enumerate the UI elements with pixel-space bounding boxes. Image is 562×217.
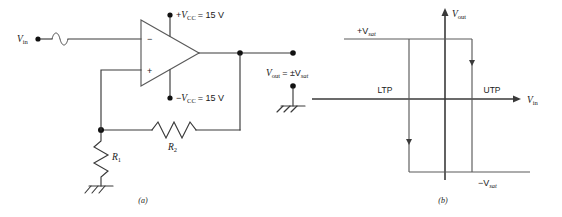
negative-supply-label: −VCC= 15 V xyxy=(176,93,224,104)
utp-label: UTP xyxy=(484,85,501,95)
negative-supply-value: = 15 V xyxy=(198,93,224,103)
figure-schmitt-trigger: − + +VCC= 15 V −VCC= 15 V Vout= ±Vsat xyxy=(0,0,562,217)
y-axis-label: Vout xyxy=(452,9,466,20)
positive-saturation-sub: sat xyxy=(368,30,376,37)
negative-supply-sub: CC xyxy=(187,97,196,104)
ltp-label: LTP xyxy=(378,85,393,95)
resistor-2-symbol xyxy=(152,122,196,138)
sine-source-icon xyxy=(52,33,68,45)
caption-b: (b) xyxy=(438,196,448,205)
resistor-2-sub: 2 xyxy=(174,146,177,153)
transfer-characteristic-chart: Vout Vin +Vsat −Vsat LTP UTP (b) xyxy=(312,8,539,205)
output-ground-symbol xyxy=(277,106,305,112)
feedback-wire-to-noninverting xyxy=(101,70,141,130)
negative-saturation-label: −Vsat xyxy=(478,178,497,189)
positive-supply-value: = 15 V xyxy=(198,10,224,20)
figure-canvas: − + +VCC= 15 V −VCC= 15 V Vout= ±Vsat xyxy=(0,0,562,217)
input-label: Vin xyxy=(17,34,29,45)
output-equals: = ±V xyxy=(282,68,301,78)
y-axis-sub: out xyxy=(458,13,467,20)
circuit-diagram: − + +VCC= 15 V −VCC= 15 V Vout= ±Vsat xyxy=(17,10,309,205)
opamp-inverting-marker: − xyxy=(147,34,152,44)
y-axis-arrowhead xyxy=(442,8,449,16)
input-sub: in xyxy=(23,38,29,45)
positive-saturation-label: +Vsat xyxy=(357,26,376,37)
positive-supply-label: +VCC= 15 V xyxy=(176,10,224,21)
opamp-noninverting-marker: + xyxy=(147,66,152,76)
negative-saturation-sub: sat xyxy=(489,182,497,189)
output-sub: out xyxy=(272,72,281,79)
output-terminal-node xyxy=(290,50,296,56)
positive-supply-sub: CC xyxy=(187,14,196,21)
negative-saturation-text: −V xyxy=(478,178,489,188)
x-axis-sub: in xyxy=(533,99,539,106)
output-sat-sub: sat xyxy=(301,72,309,79)
x-axis-arrowhead xyxy=(513,96,521,103)
resistor-1-sub: 1 xyxy=(118,156,121,163)
output-label: Vout= ±Vsat xyxy=(266,68,309,79)
input-terminal-node xyxy=(35,36,40,41)
negative-supply-node xyxy=(167,95,172,100)
positive-saturation-text: +V xyxy=(357,26,368,36)
utp-direction-arrow xyxy=(469,60,475,66)
positive-supply-node xyxy=(167,12,172,17)
resistor-1-symbol xyxy=(94,133,108,186)
caption-a: (a) xyxy=(138,196,148,205)
ltp-direction-arrow xyxy=(406,139,412,145)
resistor-1-label: R1 xyxy=(111,152,121,163)
resistor-2-label: R2 xyxy=(167,142,177,153)
x-axis-label: Vin xyxy=(527,95,539,106)
circuit-ground-symbol xyxy=(85,186,113,193)
